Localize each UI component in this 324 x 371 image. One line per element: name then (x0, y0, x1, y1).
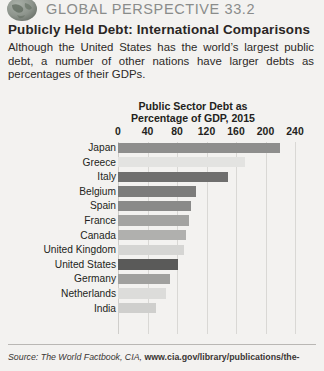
x-tick-40: 40 (142, 126, 154, 137)
bar-united-states (118, 259, 178, 269)
x-tick-0: 0 (115, 126, 121, 137)
x-tick-160: 160 (227, 126, 244, 137)
chart-row: United States (0, 259, 324, 274)
bar-united-kingdom (118, 245, 184, 255)
bar-label-france: France (0, 215, 116, 226)
bar-label-united-kingdom: United Kingdom (0, 244, 116, 255)
bar-label-canada: Canada (0, 230, 116, 241)
chart-row: India (0, 303, 324, 318)
bar-france (118, 215, 189, 225)
chart-row: France (0, 215, 324, 230)
chart-plot-area: JapanGreeceItalyBelgiumSpainFranceCanada… (0, 142, 324, 338)
feature-header: GLOBAL PERSPECTIVE 33.2 (0, 0, 324, 22)
source-line: Source: The World Factbook, CIA, www.cia… (8, 352, 320, 363)
chart-row: Greece (0, 157, 324, 172)
bar-germany (118, 274, 170, 284)
bar-spain (118, 201, 191, 211)
bar-label-netherlands: Netherlands (0, 288, 116, 299)
global-perspective-label: GLOBAL PERSPECTIVE 33.2 (46, 1, 255, 17)
bar-label-united-states: United States (0, 259, 116, 270)
chart-row: Netherlands (0, 288, 324, 303)
bar-label-italy: Italy (0, 171, 116, 182)
bar-label-india: India (0, 303, 116, 314)
source-divider (8, 344, 316, 345)
source-prefix: Source: The World Factbook, CIA, (8, 352, 144, 362)
x-tick-80: 80 (171, 126, 183, 137)
chart-row: Germany (0, 273, 324, 288)
bar-netherlands (118, 288, 166, 298)
x-tick-200: 200 (257, 126, 274, 137)
bar-belgium (118, 186, 196, 196)
chart-bar-rows: JapanGreeceItalyBelgiumSpainFranceCanada… (0, 142, 324, 317)
bar-canada (118, 230, 186, 240)
bar-label-japan: Japan (0, 142, 116, 153)
chart-row: Spain (0, 200, 324, 215)
chart-title-line-1: Public Sector Debt as (139, 100, 248, 112)
source-url[interactable]: www.cia.gov/library/publications/the- (144, 352, 299, 362)
bar-label-spain: Spain (0, 200, 116, 211)
feature-title: Publicly Held Debt: International Compar… (8, 22, 318, 37)
chart-row: Italy (0, 171, 324, 186)
chart-title-line-2: Percentage of GDP, 2015 (131, 112, 255, 124)
chart-row: United Kingdom (0, 244, 324, 259)
debt-bar-chart: Public Sector Debt as Percentage of GDP,… (0, 100, 324, 340)
bar-label-greece: Greece (0, 157, 116, 168)
global-perspective-feature-box: GLOBAL PERSPECTIVE 33.2 Publicly Held De… (0, 0, 324, 371)
chart-title: Public Sector Debt as Percentage of GDP,… (78, 100, 308, 125)
globe-icon (4, 0, 40, 22)
bar-italy (118, 172, 228, 182)
x-axis-tick-labels: 04080120160200240 (0, 126, 324, 140)
chart-row: Canada (0, 230, 324, 245)
feature-intro-paragraph: Although the United States has the world… (8, 41, 314, 82)
x-tick-240: 240 (286, 126, 303, 137)
chart-row: Japan (0, 142, 324, 157)
x-tick-120: 120 (198, 126, 215, 137)
bar-japan (118, 143, 280, 153)
bar-greece (118, 157, 245, 167)
bar-label-belgium: Belgium (0, 186, 116, 197)
bar-india (118, 303, 156, 313)
bar-label-germany: Germany (0, 273, 116, 284)
chart-row: Belgium (0, 186, 324, 201)
